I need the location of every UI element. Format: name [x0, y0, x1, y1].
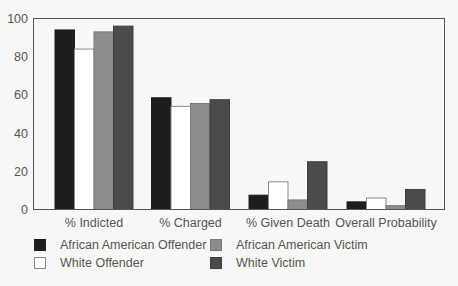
x-category-label: % Charged	[159, 216, 222, 230]
y-tick-label: 20	[14, 165, 28, 179]
bar	[269, 182, 289, 210]
bar	[288, 200, 308, 210]
bar	[114, 26, 134, 209]
legend-label: White Victim	[236, 256, 305, 270]
bar	[367, 198, 387, 209]
y-axis: 020406080100	[7, 12, 28, 217]
legend-item-african-american-offender: African American Offender	[34, 238, 206, 252]
bar	[249, 195, 269, 209]
x-category-label: % Indicted	[65, 216, 123, 230]
bar	[347, 202, 367, 210]
legend-label: White Offender	[60, 256, 144, 270]
bar	[75, 49, 95, 209]
legend-label: African American Offender	[60, 238, 206, 252]
legend-label: African American Victim	[236, 238, 368, 252]
legend-swatch	[34, 239, 46, 251]
legend-swatch	[210, 257, 222, 269]
bar	[55, 30, 75, 210]
x-axis-labels: % Indicted% Charged% Given DeathOverall …	[65, 216, 438, 230]
y-tick-label: 0	[21, 203, 28, 217]
y-tick-label: 60	[14, 88, 28, 102]
bar	[308, 162, 328, 210]
legend-item-white-offender: White Offender	[34, 256, 144, 270]
bar	[386, 206, 406, 210]
legend-item-african-american-victim: African American Victim	[210, 238, 368, 252]
legend-item-white-victim: White Victim	[210, 256, 305, 270]
legend-swatch	[34, 257, 46, 269]
legend-swatch	[210, 239, 222, 251]
bar	[171, 106, 191, 209]
bar	[191, 103, 211, 209]
bar	[406, 189, 426, 209]
bar	[94, 32, 114, 210]
bars	[55, 26, 425, 209]
x-category-label: Overall Probability	[335, 216, 437, 230]
y-tick-label: 100	[7, 12, 28, 26]
y-tick-label: 40	[14, 127, 28, 141]
y-tick-label: 80	[14, 50, 28, 64]
bar	[210, 100, 230, 210]
bar	[152, 98, 172, 210]
x-category-label: % Given Death	[246, 216, 330, 230]
